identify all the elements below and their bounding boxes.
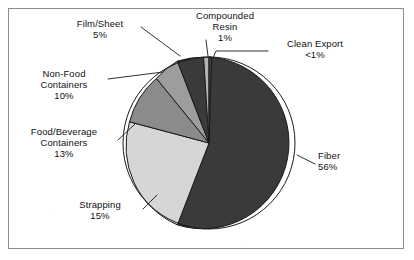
pie-label-clean-export-name: Clean Export [272, 38, 358, 49]
pie-label-compounded-resin-name-2: Resin [185, 21, 265, 32]
pie-label-strapping: Strapping 15% [62, 199, 138, 221]
pie-label-strapping-value: 15% [62, 210, 138, 221]
pie-label-compounded-resin: Compounded Resin 1% [185, 10, 265, 43]
pie-label-fiber-value: 56% [318, 161, 378, 172]
pie-label-food-beverage-containers-name-1: Food/Beverage [14, 126, 114, 137]
leader-line-non-food-containers [108, 72, 163, 79]
pie-label-non-food-containers-name-2: Containers [22, 79, 106, 90]
pie-label-non-food-containers-value: 10% [22, 90, 106, 101]
pie-label-food-beverage-containers-name-2: Containers [14, 137, 114, 148]
pie-label-food-beverage-containers: Food/Beverage Containers 13% [14, 126, 114, 159]
pie-label-compounded-resin-name-1: Compounded [185, 10, 265, 21]
pie-label-film-sheet-value: 5% [62, 29, 138, 40]
leader-line-clean-export [213, 51, 268, 58]
pie-label-clean-export: Clean Export <1% [272, 38, 358, 60]
screenshot-root: Film/Sheet 5% Compounded Resin 1% Clean … [0, 0, 414, 260]
pie-label-food-beverage-containers-value: 13% [14, 148, 114, 159]
leader-line-fiber [297, 155, 315, 164]
pie-label-film-sheet-name: Film/Sheet [62, 18, 138, 29]
pie-label-non-food-containers-name-1: Non-Food [22, 68, 106, 79]
pie-label-non-food-containers: Non-Food Containers 10% [22, 68, 106, 101]
pie-label-fiber: Fiber 56% [318, 150, 378, 172]
leader-line-film-sheet [141, 27, 180, 56]
pie-label-film-sheet: Film/Sheet 5% [62, 18, 138, 40]
pie-label-strapping-name: Strapping [62, 199, 138, 210]
pie-label-clean-export-value: <1% [272, 49, 358, 60]
pie-label-fiber-name: Fiber [318, 150, 378, 161]
pie-label-compounded-resin-value: 1% [185, 32, 265, 43]
